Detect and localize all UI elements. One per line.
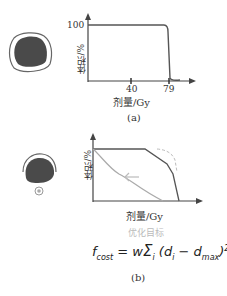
x-axis-label-b: 剂量/Gy	[126, 211, 163, 223]
cost-function-formula: fcost = wΣi (di − dmax)2	[92, 242, 227, 262]
y-tick-100: 100	[67, 20, 84, 30]
optimization-objective-label: 优化目标	[128, 226, 164, 239]
target-organ-icon	[6, 30, 56, 74]
x-tick-79: 79	[163, 84, 174, 94]
organ-at-risk-icon	[18, 150, 60, 198]
y-axis-label-b: 体积/%	[81, 150, 94, 180]
dvh-chart-b	[85, 132, 210, 208]
x-tick-40: 40	[126, 84, 137, 94]
caption-a: (a)	[127, 112, 141, 123]
y-axis-label-a: 体积/%	[74, 44, 87, 74]
caption-b: (b)	[131, 272, 145, 283]
x-axis-label-a: 剂量/Gy	[113, 97, 150, 109]
